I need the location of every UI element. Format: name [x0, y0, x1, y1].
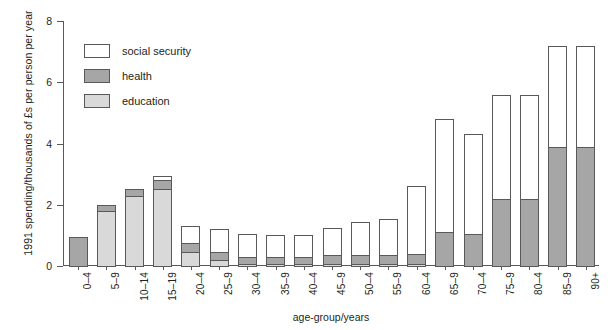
x-tick-mark: [191, 266, 192, 270]
stacked-bar-chart: 1991 spending/thousands of £s per person…: [0, 0, 611, 330]
x-tick-label: 55–9: [392, 272, 403, 295]
bar-stack: [520, 95, 539, 267]
bar-segment-social-security[interactable]: [379, 219, 398, 257]
bar-stack: [435, 119, 454, 266]
x-tick-label: 30–4: [251, 272, 262, 295]
bar-stack: [238, 234, 257, 266]
bar-segment-health[interactable]: [520, 199, 539, 267]
x-tick-mark: [276, 266, 277, 270]
bar-segment-health[interactable]: [492, 199, 511, 267]
bar-segment-health[interactable]: [548, 147, 567, 267]
bar-segment-health[interactable]: [464, 234, 483, 267]
legend-swatch-icon: [84, 69, 110, 83]
x-tick-mark: [417, 266, 418, 270]
x-tick-mark: [360, 266, 361, 270]
bar-segment-social-security[interactable]: [435, 119, 454, 233]
x-tick-mark: [501, 266, 502, 270]
x-tick-label: 20–4: [195, 272, 206, 295]
bar-segment-social-security[interactable]: [576, 46, 595, 148]
chart-legend: social securityhealtheducation: [84, 40, 191, 115]
x-tick-mark: [586, 266, 587, 270]
bar-segment-social-security[interactable]: [294, 235, 313, 257]
y-tick-label: 2: [38, 200, 52, 210]
x-tick-label: 40–4: [308, 272, 319, 295]
bar-segment-social-security[interactable]: [548, 46, 567, 148]
x-tick-mark: [473, 266, 474, 270]
bar-segment-social-security[interactable]: [464, 134, 483, 235]
x-tick-mark: [445, 266, 446, 270]
bar-stack: [294, 235, 313, 266]
bar-segment-social-security[interactable]: [210, 229, 229, 253]
legend-swatch-icon: [84, 94, 110, 108]
x-tick-label: 15–19: [167, 272, 178, 301]
legend-label: education: [122, 95, 170, 107]
x-tick-mark: [388, 266, 389, 270]
bar-segment-education[interactable]: [97, 211, 116, 267]
x-tick-label: 10–14: [139, 272, 150, 301]
x-tick-label: 50–4: [364, 272, 375, 295]
bar-stack: [323, 228, 342, 266]
x-tick-label: 45–9: [336, 272, 347, 295]
bar-stack: [407, 186, 426, 266]
y-tick-label: 6: [38, 77, 52, 87]
legend-item-education[interactable]: education: [84, 90, 191, 111]
x-tick-label: 60–4: [421, 272, 432, 295]
bar-segment-health[interactable]: [69, 237, 88, 267]
y-axis-title: 1991 spending/thousands of £s per person…: [22, 0, 34, 267]
bar-segment-social-security[interactable]: [238, 234, 257, 258]
x-tick-mark: [529, 266, 530, 270]
bar-segment-social-security[interactable]: [181, 226, 200, 244]
bar-segment-social-security[interactable]: [323, 228, 342, 257]
x-tick-mark: [304, 266, 305, 270]
bar-segment-social-security[interactable]: [266, 235, 285, 257]
bar-segment-education[interactable]: [153, 189, 172, 267]
legend-label: social security: [122, 45, 191, 57]
bar-stack: [210, 229, 229, 266]
bar-stack: [69, 237, 88, 266]
bar-segment-social-security[interactable]: [520, 95, 539, 200]
bar-segment-social-security[interactable]: [351, 222, 370, 257]
x-tick-mark: [247, 266, 248, 270]
x-tick-mark: [135, 266, 136, 270]
legend-swatch-icon: [84, 44, 110, 58]
y-tick-label: 8: [38, 16, 52, 26]
bar-stack: [125, 189, 144, 266]
bar-segment-education[interactable]: [125, 196, 144, 267]
x-tick-label: 70–4: [477, 272, 488, 295]
bar-segment-health[interactable]: [576, 147, 595, 267]
bar-segment-education[interactable]: [181, 252, 200, 267]
bar-segment-health[interactable]: [435, 232, 454, 267]
bar-stack: [379, 219, 398, 266]
bar-stack: [153, 176, 172, 266]
x-tick-mark: [106, 266, 107, 270]
x-tick-mark: [219, 266, 220, 270]
bar-stack: [464, 134, 483, 266]
x-tick-label: 80–4: [533, 272, 544, 295]
x-tick-label: 35–9: [280, 272, 291, 295]
legend-label: health: [122, 70, 152, 82]
x-tick-label: 0–4: [82, 272, 93, 289]
x-tick-mark: [332, 266, 333, 270]
x-tick-mark: [163, 266, 164, 270]
bar-stack: [266, 235, 285, 266]
y-tick-label: 4: [38, 139, 52, 149]
legend-item-social[interactable]: social security: [84, 40, 191, 61]
bar-stack: [181, 226, 200, 266]
x-tick-label: 25–9: [223, 272, 234, 295]
x-tick-label: 5–9: [110, 272, 121, 289]
legend-item-health[interactable]: health: [84, 65, 191, 86]
x-axis-title: age-group/years: [63, 311, 599, 323]
x-tick-label: 75–9: [505, 272, 516, 295]
bar-stack: [351, 222, 370, 266]
x-tick-mark: [78, 266, 79, 270]
bar-stack: [97, 205, 116, 266]
x-tick-label: 90+: [590, 272, 601, 290]
bar-stack: [576, 46, 595, 267]
x-tick-mark: [558, 266, 559, 270]
bar-segment-social-security[interactable]: [492, 95, 511, 200]
y-tick-label: 0: [38, 261, 52, 271]
y-tick-mark: [57, 266, 63, 267]
x-tick-label: 85–9: [562, 272, 573, 295]
bar-stack: [548, 46, 567, 267]
bar-segment-social-security[interactable]: [407, 186, 426, 254]
